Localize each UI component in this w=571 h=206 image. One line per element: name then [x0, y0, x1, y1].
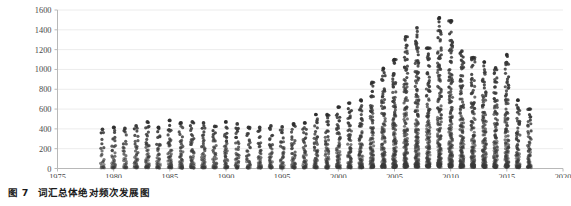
- data-point: [348, 116, 351, 119]
- data-point: [449, 110, 452, 113]
- data-point: [403, 78, 406, 81]
- data-point: [459, 114, 462, 117]
- data-point: [473, 101, 476, 104]
- data-point: [515, 137, 518, 140]
- data-point: [168, 137, 171, 140]
- data-point-max: [258, 126, 262, 130]
- data-point: [279, 128, 282, 131]
- data-point: [405, 106, 408, 109]
- data-point: [438, 65, 441, 68]
- data-point-max: [471, 56, 475, 60]
- data-point: [403, 125, 406, 128]
- data-point: [393, 147, 396, 150]
- data-point: [393, 72, 396, 75]
- data-point: [403, 129, 406, 132]
- data-point: [405, 44, 408, 47]
- data-point: [383, 105, 386, 108]
- y-tick-label: 1000: [35, 65, 52, 74]
- chart-svg: 02004006008001000120014001600 1975198019…: [0, 0, 571, 178]
- data-point: [473, 139, 476, 142]
- data-point: [290, 142, 293, 145]
- data-point: [494, 85, 497, 88]
- data-point: [235, 136, 238, 139]
- data-point: [471, 120, 474, 123]
- data-point: [505, 102, 508, 105]
- data-point: [348, 138, 351, 141]
- data-point: [415, 88, 418, 91]
- data-point: [369, 143, 372, 146]
- data-point: [436, 122, 439, 125]
- data-point: [415, 35, 418, 38]
- data-point: [439, 104, 442, 107]
- data-point: [190, 133, 193, 136]
- data-point: [459, 108, 462, 111]
- data-point: [485, 152, 488, 155]
- data-point: [473, 95, 476, 98]
- data-point: [406, 117, 409, 120]
- data-point: [327, 138, 330, 141]
- data-point: [461, 100, 464, 103]
- y-tick-label: 800: [39, 85, 52, 94]
- data-point: [460, 92, 463, 95]
- data-point: [472, 126, 475, 129]
- x-tick-label: 1985: [161, 173, 178, 179]
- data-point: [189, 129, 192, 132]
- data-point: [346, 143, 349, 146]
- data-point: [290, 130, 293, 133]
- data-point: [167, 133, 170, 136]
- data-point: [191, 148, 194, 151]
- data-point: [470, 73, 473, 76]
- data-point: [268, 138, 271, 141]
- figure-container: 02004006008001000120014001600 1975198019…: [0, 0, 571, 206]
- data-point: [349, 143, 352, 146]
- x-tick-label: 1975: [49, 173, 66, 179]
- data-point: [347, 107, 350, 110]
- data-point: [282, 146, 285, 149]
- data-point: [294, 150, 297, 153]
- data-point: [506, 98, 509, 101]
- data-point: [436, 68, 439, 71]
- data-point: [290, 152, 293, 155]
- data-point: [294, 154, 297, 157]
- data-point: [369, 137, 372, 140]
- data-point: [313, 145, 316, 148]
- data-point: [425, 145, 428, 148]
- data-point: [503, 120, 506, 123]
- data-point: [436, 118, 439, 121]
- data-point: [382, 114, 385, 117]
- data-point: [440, 88, 443, 91]
- data-point: [305, 132, 308, 135]
- data-point: [416, 30, 419, 33]
- data-point: [493, 80, 496, 83]
- data-point-max: [370, 80, 374, 84]
- data-point: [437, 165, 440, 168]
- data-point: [110, 145, 113, 148]
- data-point: [313, 124, 316, 127]
- data-point: [470, 124, 473, 127]
- data-point: [473, 131, 476, 134]
- data-point: [325, 146, 328, 149]
- data-point-max: [247, 126, 251, 130]
- data-point: [347, 122, 350, 125]
- data-point: [270, 151, 273, 154]
- data-point-max: [381, 67, 385, 71]
- y-tick-labels: 02004006008001000120014001600: [35, 6, 52, 174]
- data-point-max: [359, 98, 363, 102]
- data-point: [155, 143, 158, 146]
- data-point: [406, 58, 409, 61]
- data-point: [528, 141, 531, 144]
- data-point: [404, 148, 407, 151]
- data-point: [427, 129, 430, 132]
- data-point: [133, 134, 136, 137]
- data-point: [530, 129, 533, 132]
- data-point: [133, 127, 136, 130]
- data-point: [448, 71, 451, 74]
- data-point: [506, 134, 509, 137]
- data-point: [483, 86, 486, 89]
- data-point: [189, 155, 192, 158]
- data-point: [324, 152, 327, 155]
- data-point: [347, 129, 350, 132]
- data-point: [391, 83, 394, 86]
- data-point: [145, 138, 148, 141]
- data-point: [247, 153, 250, 156]
